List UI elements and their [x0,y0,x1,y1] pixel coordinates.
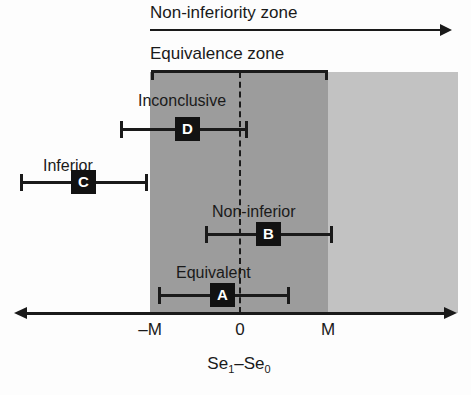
axis-arrow-right [444,307,457,319]
noninferiority-equivalence-diagram: Non-inferiority zone Equivalence zone In… [0,0,471,395]
non-inferiority-arrow-head [440,24,452,36]
interval-label-a: Equivalent [176,264,251,282]
interval-label-b: Non-inferior [212,203,296,221]
confidence-interval-a: A [158,283,290,307]
interval-marker-d: D [175,117,200,141]
confidence-interval-d: D [120,117,248,141]
equivalence-zone-label: Equivalence zone [150,44,284,64]
interval-cap-lower-a [158,287,161,304]
interval-cap-lower-d [120,121,123,138]
axis-title-sub2: 0 [265,363,271,375]
interval-cap-upper-a [287,287,290,304]
interval-cap-upper-c [145,174,148,191]
axis-title-part2: –Se [234,354,264,373]
tick-label-zero: 0 [235,320,244,340]
tick-label-negative-m: –M [138,320,162,340]
equivalence-zone-bracket [151,70,328,80]
interval-label-d: Inconclusive [138,92,226,110]
interval-cap-lower-c [20,174,23,191]
non-inferiority-zone-label: Non-inferiority zone [150,3,297,23]
x-axis-line [26,312,446,315]
interval-marker-c: C [71,170,96,194]
non-inferiority-arrow-line [150,29,442,31]
x-axis-title: Se1–Se0 [207,354,270,375]
tick-label-m: M [321,320,335,340]
interval-marker-a: A [210,283,235,307]
confidence-interval-b: B [205,222,333,246]
axis-title-part1: Se [207,354,228,373]
confidence-interval-c: C [20,170,148,194]
interval-cap-upper-d [245,121,248,138]
interval-cap-upper-b [330,226,333,243]
interval-marker-b: B [256,222,281,246]
interval-cap-lower-b [205,226,208,243]
